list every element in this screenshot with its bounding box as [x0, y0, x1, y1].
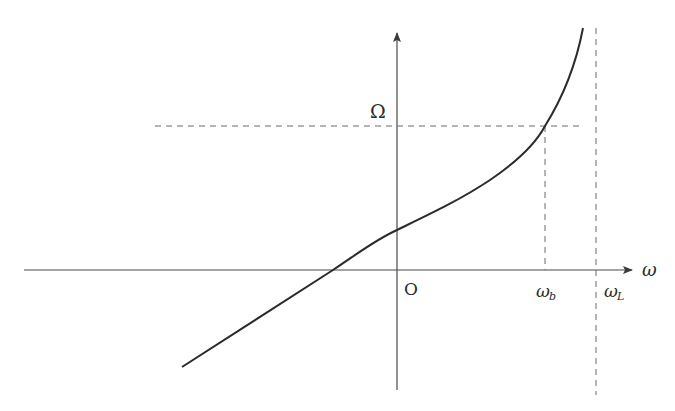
dispersion-curve: [182, 28, 583, 367]
x-axis-label: ω: [642, 259, 657, 280]
origin-label: O: [404, 279, 418, 299]
omega-l-label: ω L: [604, 281, 624, 303]
y-axis-label: Ω: [370, 100, 386, 122]
svg-text:b: b: [549, 290, 556, 303]
svg-text:L: L: [616, 290, 624, 303]
omega-b-label: ω b: [536, 281, 556, 303]
svg-text:ω: ω: [604, 281, 618, 301]
dispersion-diagram: Ω ω O ω b ω L: [0, 0, 675, 411]
svg-text:ω: ω: [536, 281, 550, 301]
